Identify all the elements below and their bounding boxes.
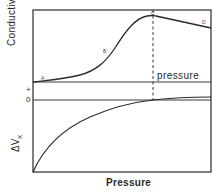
delta-vk-subscript: K <box>17 135 23 139</box>
conductivity-pressure-figure: Conductivy ΔVK + 0 pressure Pressure A B… <box>0 0 222 196</box>
pressure-annotation: pressure <box>157 70 199 81</box>
conductivity-axis-label: Conductivy <box>6 0 17 46</box>
point-label-c: C <box>151 10 155 16</box>
point-label-a: A <box>41 75 44 81</box>
delta-vk-curve <box>33 97 211 172</box>
point-label-d: D <box>202 19 206 25</box>
pressure-axis-label: Pressure <box>106 177 151 188</box>
zero-tick-label: 0 <box>26 95 30 104</box>
plot-frame <box>33 10 211 172</box>
delta-vk-axis-label: ΔVK <box>10 135 23 152</box>
figure-svg <box>0 0 222 196</box>
delta-vk-main: ΔV <box>10 139 21 152</box>
plus-tick-label: + <box>26 85 31 94</box>
point-label-b: B <box>103 48 106 54</box>
